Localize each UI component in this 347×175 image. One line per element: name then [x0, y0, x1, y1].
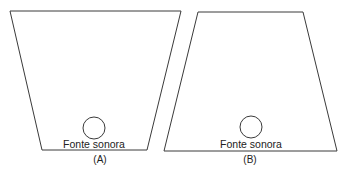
sound-source-a-icon — [83, 117, 105, 139]
room-shape-diagram: Fonte sonora (A) Fonte sonora (B) — [0, 0, 347, 175]
panel-a-caption: (A) — [93, 154, 106, 165]
panel-a: Fonte sonora (A) — [10, 11, 181, 165]
trapezoid-a — [10, 11, 181, 150]
sound-source-b-icon — [240, 116, 262, 138]
sound-source-b-label: Fonte sonora — [220, 138, 282, 150]
sound-source-a-label: Fonte sonora — [63, 138, 125, 150]
trapezoid-b — [164, 12, 337, 151]
panel-b-caption: (B) — [243, 154, 256, 165]
panel-b: Fonte sonora (B) — [164, 12, 337, 165]
